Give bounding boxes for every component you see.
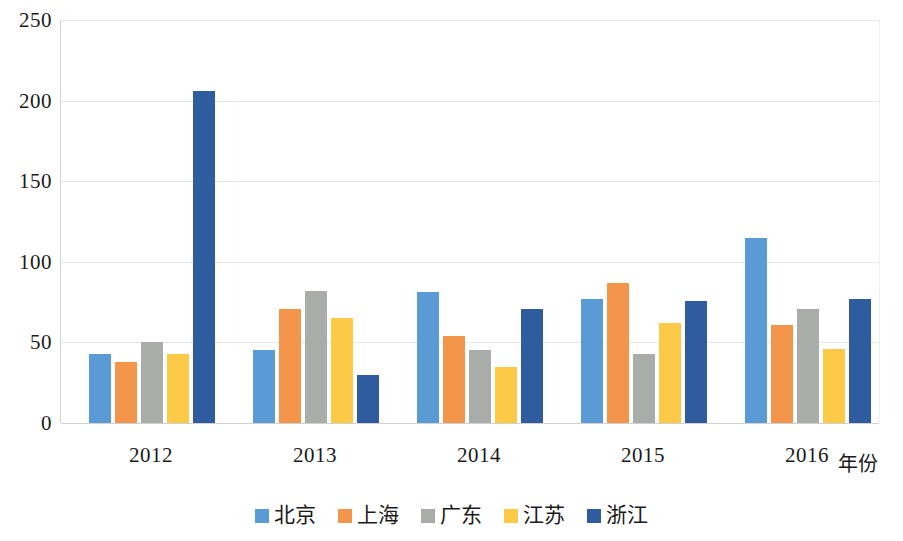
legend-label: 北京 <box>274 505 316 526</box>
bar[interactable] <box>659 323 681 423</box>
bar[interactable] <box>685 301 707 424</box>
legend-item[interactable]: 北京 <box>255 505 316 526</box>
legend-swatch <box>421 509 435 523</box>
bar[interactable] <box>331 318 353 423</box>
bar[interactable] <box>745 238 767 423</box>
bar[interactable] <box>115 362 137 423</box>
bar[interactable] <box>797 309 819 423</box>
bar[interactable] <box>495 367 517 423</box>
x-axis: 20122013201420152016 <box>60 445 880 477</box>
bar[interactable] <box>633 354 655 423</box>
bars-layer <box>61 20 879 423</box>
bar[interactable] <box>253 350 275 423</box>
y-axis-tick-label: 100 <box>0 251 52 272</box>
y-axis-tick-label: 200 <box>0 90 52 111</box>
legend-label: 浙江 <box>606 505 648 526</box>
x-axis-title: 年份 <box>838 448 878 477</box>
bar[interactable] <box>167 354 189 423</box>
x-axis-tick-label: 2016 <box>767 445 847 466</box>
legend-item[interactable]: 上海 <box>338 505 399 526</box>
bar-chart: 050100150200250 20122013201420152016 年份 … <box>0 0 903 541</box>
x-axis-tick-label: 2014 <box>439 445 519 466</box>
gridline <box>61 423 879 424</box>
plot-area <box>60 20 880 423</box>
y-axis-tick-label: 0 <box>0 413 52 434</box>
bar-group <box>417 20 543 423</box>
legend-swatch <box>587 509 601 523</box>
legend-label: 广东 <box>440 505 482 526</box>
bar[interactable] <box>443 336 465 423</box>
legend-swatch <box>255 509 269 523</box>
legend-label: 江苏 <box>523 505 565 526</box>
bar[interactable] <box>89 354 111 423</box>
legend-item[interactable]: 江苏 <box>504 505 565 526</box>
bar[interactable] <box>521 309 543 423</box>
bar[interactable] <box>357 375 379 423</box>
legend-label: 上海 <box>357 505 399 526</box>
y-axis: 050100150200250 <box>0 0 52 443</box>
bar-group <box>89 20 215 423</box>
bar[interactable] <box>417 292 439 423</box>
bar[interactable] <box>279 309 301 423</box>
bar[interactable] <box>141 342 163 423</box>
y-axis-tick-label: 250 <box>0 10 52 31</box>
y-axis-tick-label: 50 <box>0 332 52 353</box>
bar[interactable] <box>193 91 215 423</box>
bar[interactable] <box>469 350 491 423</box>
legend-swatch <box>338 509 352 523</box>
bar-group <box>581 20 707 423</box>
x-axis-tick-label: 2015 <box>603 445 683 466</box>
bar-group <box>253 20 379 423</box>
x-axis-tick-label: 2013 <box>275 445 355 466</box>
bar[interactable] <box>607 283 629 423</box>
legend-item[interactable]: 浙江 <box>587 505 648 526</box>
x-axis-tick-label: 2012 <box>111 445 191 466</box>
bar[interactable] <box>849 299 871 423</box>
y-axis-tick-label: 150 <box>0 171 52 192</box>
bar[interactable] <box>823 349 845 423</box>
bar[interactable] <box>305 291 327 423</box>
bar[interactable] <box>771 325 793 423</box>
bar-group <box>745 20 871 423</box>
legend-swatch <box>504 509 518 523</box>
legend-item[interactable]: 广东 <box>421 505 482 526</box>
legend: 北京上海广东江苏浙江 <box>0 505 903 526</box>
bar[interactable] <box>581 299 603 423</box>
